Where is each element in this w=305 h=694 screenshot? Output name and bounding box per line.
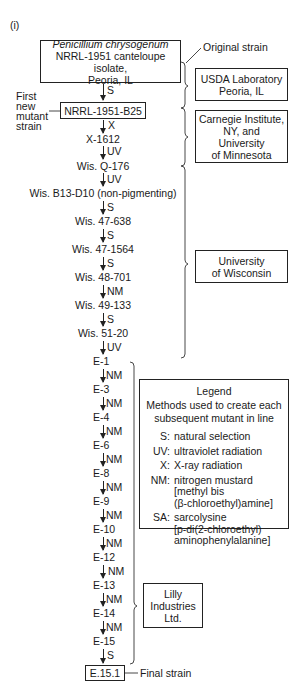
method-label: NM (106, 593, 122, 605)
institution-line: USDA Laboratory (201, 73, 283, 85)
legend-box: Legend Methods used to create each subse… (139, 379, 289, 529)
arrow-down-icon (103, 537, 104, 550)
strain-label: E-12 (93, 551, 115, 563)
method-label: X (108, 119, 115, 131)
method-label: NM (106, 369, 122, 381)
institution-line: of Wisconsin (212, 267, 272, 279)
method-label: S (107, 313, 114, 325)
institution-line: Ltd. (164, 612, 182, 624)
method-label: S (107, 201, 114, 213)
institution-line: NY, and (223, 125, 260, 137)
arrow-down-icon (103, 257, 104, 270)
method-label: NM (106, 425, 122, 437)
arrow-down-icon (103, 201, 104, 214)
method-label: S (107, 84, 114, 96)
arrow-down-icon (103, 146, 104, 159)
institution-line: University (218, 137, 264, 149)
legend-value-line: aminophenylalanine] (174, 535, 288, 547)
institution-line: Lilly (164, 588, 182, 600)
strain-label: Wis. 51-20 (78, 327, 128, 339)
strain-label: E-14 (93, 607, 115, 619)
carnegie-brace (181, 108, 188, 166)
strain-label: E-4 (93, 411, 109, 423)
legend-value-line: [methyl bis (174, 486, 288, 498)
legend-value: nitrogen mustard [methyl bis (β-chloroet… (174, 475, 288, 510)
institution-wisconsin-box: University of Wisconsin (195, 250, 288, 283)
strain-label: Wis. B13-D10 (non-pigmenting) (29, 187, 176, 199)
method-label: S (107, 257, 114, 269)
legend-entry-uv: UV: ultraviolet radiation (140, 446, 288, 458)
arrow-down-icon (103, 565, 104, 578)
institution-line: Carnegie Institute, (199, 113, 284, 125)
arrow-down-icon (103, 509, 104, 522)
first-mutant-box: NRRL-1951-B25 (60, 102, 146, 119)
method-label: NM (106, 481, 122, 493)
legend-value-line: sarcolysine (174, 512, 288, 524)
legend-entry-x: X: X-ray radiation (140, 460, 288, 472)
first-mutant-annotation: First new mutant strain (16, 91, 48, 131)
institution-lilly-box: Lilly Industries Ltd. (143, 583, 203, 628)
lilly-brace (130, 362, 137, 664)
strain-label: X-1612 (86, 133, 120, 145)
origin-strain-box: Penicillium chrysogenum NRRL-1951 cantel… (40, 40, 181, 83)
legend-key: X: (140, 460, 174, 472)
usda-brace (181, 62, 188, 108)
method-label: NM (107, 285, 123, 297)
arrow-down-icon (103, 453, 104, 466)
method-label: NM (106, 453, 122, 465)
legend-key: UV: (140, 446, 174, 458)
legend-key: S: (140, 431, 174, 443)
strain-label: Wis. 49-133 (75, 299, 131, 311)
institution-line: University (218, 255, 264, 267)
final-strain-annotation: Final strain (140, 667, 191, 679)
strain-label: E-6 (93, 439, 109, 451)
legend-key: SA: (140, 512, 174, 547)
strain-label: E-3 (93, 383, 109, 395)
strain-label: E-8 (93, 467, 109, 479)
annotation-line: strain (16, 121, 48, 131)
legend-entry-sa: SA: sarcolysine [p-di(2-chloroethyl) ami… (140, 512, 288, 547)
legend-key: NM: (140, 475, 174, 510)
legend-entry-s: S: natural selection (140, 431, 288, 443)
arrow-down-icon (103, 229, 104, 242)
method-label: NM (106, 509, 122, 521)
legend-subtitle-line: subsequent mutant in line (154, 412, 274, 425)
legend-value-line: (β-chloroethyl)amine] (174, 498, 288, 510)
institution-line: Peoria, IL (219, 85, 264, 97)
method-label: NM (106, 397, 122, 409)
arrow-down-icon (103, 621, 104, 634)
final-strain-box: E.15.1 (85, 665, 125, 681)
legend-value: natural selection (174, 431, 288, 443)
arrow-down-icon (103, 84, 104, 100)
legend-entry-nm: NM: nitrogen mustard [methyl bis (β-chlo… (140, 475, 288, 510)
wisconsin-brace (181, 166, 188, 358)
legend-entries: S: natural selection UV: ultraviolet rad… (140, 431, 288, 547)
method-label: S (107, 229, 114, 241)
origin-line2: NRRL-1951 canteloupe isolate, (41, 50, 180, 74)
strain-label: E-15 (93, 635, 115, 647)
method-label: UV (107, 173, 122, 185)
original-strain-leader-line (186, 48, 201, 63)
method-label: S (107, 649, 114, 661)
institution-carnegie-box: Carnegie Institute, NY, and University o… (195, 110, 288, 163)
legend-value: ultraviolet radiation (174, 446, 288, 458)
strain-label: E-13 (93, 579, 115, 591)
arrow-down-icon (103, 593, 104, 606)
origin-species: Penicillium chrysogenum (52, 38, 168, 50)
method-label: NM (108, 565, 124, 577)
method-label: NM (106, 621, 122, 633)
institution-line: Industries (150, 600, 196, 612)
arrow-down-icon (103, 173, 104, 186)
arrow-down-icon (103, 341, 104, 354)
strain-label: Wis. 47-1564 (72, 243, 134, 255)
arrow-down-icon (103, 397, 104, 410)
legend-value: X-ray radiation (174, 460, 288, 472)
final-strain-name: E.15.1 (90, 667, 120, 679)
arrow-down-icon (103, 313, 104, 326)
institution-usda-box: USDA Laboratory Peoria, IL (195, 68, 288, 101)
institution-line: of Minnesota (211, 149, 271, 161)
arrow-down-icon (103, 369, 104, 382)
first-mutant-name: NRRL-1951-B25 (64, 105, 142, 117)
arrow-down-icon (103, 285, 104, 298)
arrow-down-icon (103, 481, 104, 494)
